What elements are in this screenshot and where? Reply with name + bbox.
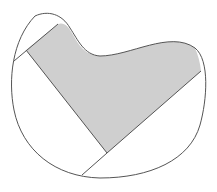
blob-diagram xyxy=(0,0,217,192)
shaded-region xyxy=(26,23,201,153)
bottom-chord xyxy=(82,153,107,175)
